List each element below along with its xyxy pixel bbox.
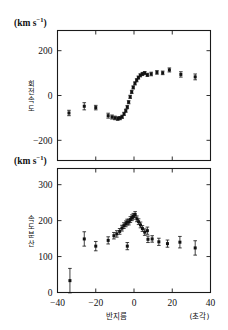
data-point	[194, 246, 197, 249]
y-tick-label: 0	[48, 288, 53, 298]
data-point	[107, 114, 110, 117]
y-axis-name-char: 도	[28, 104, 35, 113]
data-point	[94, 106, 97, 109]
data-point	[178, 241, 181, 244]
data-point	[179, 73, 182, 76]
data-point	[126, 106, 129, 109]
data-series	[67, 68, 197, 120]
unit-label-group: (km s−1)	[14, 154, 47, 166]
data-point	[113, 116, 116, 119]
data-point	[130, 90, 133, 93]
unit-main: (km s	[14, 156, 37, 167]
x-axis-name: 반지름	[106, 312, 127, 321]
two-panel-scatter-figure: −2000200(km s−1)회전속도−40−2002040010020030…	[0, 0, 228, 330]
plot-frame	[58, 31, 211, 161]
data-point	[146, 238, 149, 241]
figure-container: −2000200(km s−1)회전속도−40−2002040010020030…	[0, 0, 228, 330]
unit-label: (km s−1)	[14, 154, 47, 166]
data-point	[83, 237, 86, 240]
data-point	[194, 75, 197, 78]
data-point	[150, 72, 153, 75]
x-tick-label: 20	[168, 298, 178, 308]
data-series	[68, 212, 197, 293]
data-point	[155, 71, 158, 74]
data-point	[168, 68, 171, 71]
data-point	[83, 105, 86, 108]
data-point	[123, 112, 126, 115]
data-point	[132, 86, 135, 89]
x-tick-label: 0	[132, 298, 137, 308]
y-tick-label: 200	[38, 216, 53, 226]
unit-label-group: (km s−1)	[14, 16, 47, 28]
unit-close: )	[43, 156, 46, 167]
y-tick-label: −200	[33, 136, 53, 146]
unit-close: )	[43, 18, 46, 29]
y-tick-label: 0	[48, 91, 53, 101]
data-point	[124, 109, 127, 112]
data-point	[161, 71, 164, 74]
data-point	[115, 232, 118, 235]
data-point	[126, 245, 129, 248]
y-axis-name-char: 산	[28, 239, 35, 248]
unit-main: (km s	[14, 18, 37, 29]
x-axis-labels: 반지름(초각)	[106, 311, 210, 321]
rotation-velocity-panel: −2000200(km s−1)회전속도	[14, 16, 211, 160]
y-axis-name: 속도분산	[28, 214, 35, 248]
data-point	[143, 231, 146, 234]
data-point	[166, 242, 169, 245]
data-point	[127, 101, 130, 104]
y-axis-name: 회전속도	[28, 79, 35, 113]
data-point	[111, 116, 114, 119]
data-point	[94, 245, 97, 248]
x-tick-label: −40	[50, 298, 65, 308]
y-tick-label: 300	[38, 180, 53, 190]
unit-exponent: −1	[36, 154, 43, 161]
data-point	[68, 279, 71, 282]
plot-frame	[58, 169, 211, 293]
data-point	[151, 237, 154, 240]
unit-label: (km s−1)	[14, 16, 47, 28]
data-point	[157, 240, 160, 243]
data-point	[129, 95, 132, 98]
x-tick-label: −20	[88, 298, 103, 308]
data-point	[146, 73, 149, 76]
y-tick-label: 100	[38, 252, 53, 262]
unit-exponent: −1	[36, 16, 43, 23]
x-axis-unit: (초각)	[190, 311, 210, 321]
data-point	[146, 229, 149, 232]
data-point	[133, 82, 136, 85]
x-tick-label: 40	[206, 298, 216, 308]
data-point	[107, 239, 110, 242]
y-tick-label: 200	[38, 46, 53, 56]
velocity-dispersion-panel: −40−20020400100200300(km s−1)속도분산	[14, 154, 216, 307]
data-point	[67, 111, 70, 114]
data-point	[112, 234, 115, 237]
